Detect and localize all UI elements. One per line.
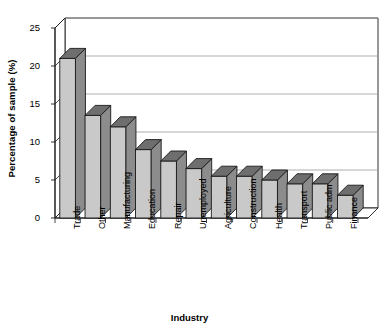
x-tick-label: Finance [349, 197, 359, 229]
x-tick-label: Unemployed [198, 178, 208, 229]
x-tick-label: Public adm [324, 184, 334, 229]
x-tick-label: Manufacturing [122, 172, 132, 229]
x-tick-label: Construction [248, 178, 258, 229]
bar-chart: Percentage of sample (%) 25 20 15 10 5 0… [0, 0, 379, 335]
x-tick-label: Education [147, 189, 157, 229]
x-tick-label: Trade [72, 206, 82, 229]
x-tick-label: Repair [173, 202, 183, 229]
x-tick-label: Health [274, 203, 284, 229]
x-tick-label: Transport [299, 191, 309, 229]
x-axis-title: Industry [0, 312, 379, 323]
x-tick-label: Agriculture [223, 186, 233, 229]
plot-area [0, 0, 379, 335]
x-tick-label: Other [97, 206, 107, 229]
